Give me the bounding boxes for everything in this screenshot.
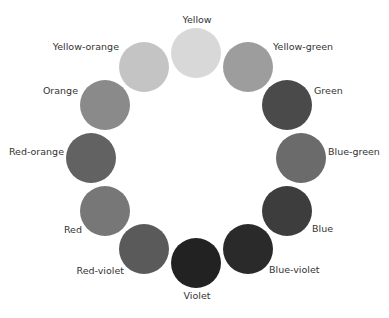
swatch-yellow — [171, 28, 221, 78]
label-orange: Orange — [43, 85, 78, 97]
swatch-orange — [80, 80, 130, 130]
swatch-yellow-green — [223, 42, 273, 92]
color-wheel: YellowYellow-greenGreenBlue-greenBlueBlu… — [0, 0, 389, 318]
label-red: Red — [64, 224, 82, 236]
label-yellow-green: Yellow-green — [273, 41, 333, 53]
label-blue-violet: Blue-violet — [269, 264, 319, 276]
label-violet: Violet — [184, 290, 211, 302]
swatch-blue — [262, 186, 312, 236]
label-yellow: Yellow — [182, 14, 211, 26]
swatch-yellow-orange — [119, 42, 169, 92]
label-yellow-orange: Yellow-orange — [53, 41, 119, 53]
label-blue-green: Blue-green — [328, 146, 380, 158]
label-green: Green — [314, 85, 343, 97]
swatch-red — [80, 186, 130, 236]
swatch-red-violet — [119, 224, 169, 274]
swatch-blue-violet — [223, 224, 273, 274]
swatch-green — [262, 80, 312, 130]
swatch-blue-green — [276, 133, 326, 183]
label-red-orange: Red-orange — [9, 146, 64, 158]
swatch-violet — [171, 238, 221, 288]
label-blue: Blue — [312, 223, 333, 235]
label-red-violet: Red-violet — [76, 265, 124, 277]
swatch-red-orange — [66, 133, 116, 183]
